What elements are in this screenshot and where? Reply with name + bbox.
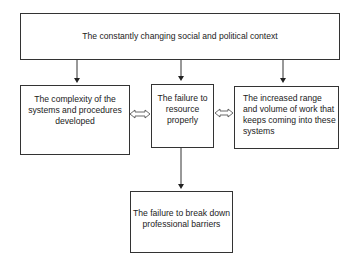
double-arrow-complexity-resource <box>130 110 150 118</box>
arrowhead-icon <box>280 78 286 83</box>
arrowhead-icon <box>178 76 184 81</box>
node-context: The constantly changing social and polit… <box>20 13 340 60</box>
arrowhead-icon <box>74 78 80 83</box>
node-complexity-label: The complexity of the systems and proced… <box>21 94 129 127</box>
node-barriers: The failure to break down professional b… <box>130 191 233 253</box>
node-complexity: The complexity of the systems and proced… <box>20 85 130 155</box>
arrowhead-icon <box>178 184 184 189</box>
node-workload-label: The increased range and volume of work t… <box>243 93 338 137</box>
node-resource-label: The failure to resource properly <box>152 93 213 126</box>
node-resource: The failure to resource properly <box>151 84 214 148</box>
double-arrow-resource-workload <box>215 109 233 117</box>
node-workload: The increased range and volume of work t… <box>234 86 339 149</box>
node-barriers-label: The failure to break down professional b… <box>131 208 232 230</box>
node-context-label: The constantly changing social and polit… <box>82 31 277 42</box>
